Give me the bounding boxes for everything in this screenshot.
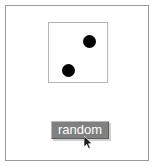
- applet-frame: random: [5, 5, 149, 161]
- die-pip-top-right: [83, 35, 96, 48]
- random-button[interactable]: random: [51, 121, 109, 139]
- random-button-shadow-right: [109, 123, 111, 141]
- die-pip-bottom-left: [62, 64, 75, 77]
- applet-root: random: [0, 0, 156, 168]
- random-button-shadow-bottom: [53, 139, 111, 141]
- die-face: [48, 22, 108, 83]
